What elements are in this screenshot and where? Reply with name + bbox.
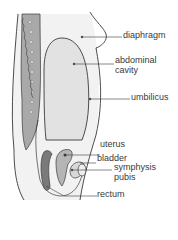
label-diaphragm: diaphragm	[123, 31, 166, 40]
label-symphysis: symphysis	[114, 163, 156, 172]
label-rectum: rectum	[97, 190, 125, 199]
label-uterus: uterus	[100, 140, 125, 149]
abdominal-cavity	[44, 38, 89, 140]
label-umbilicus: umbilicus	[131, 93, 169, 102]
label-abdominal: abdominal	[115, 56, 157, 65]
label-pubis: pubis	[114, 173, 136, 182]
label-cavity: cavity	[115, 66, 138, 75]
